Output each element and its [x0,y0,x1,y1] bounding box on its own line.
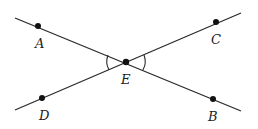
point-D [39,95,45,101]
point-C [213,19,219,25]
point-A [35,23,41,29]
angle-mark-CEB [143,55,145,70]
label-A: A [34,36,44,51]
point-B [210,96,216,102]
point-E [123,59,129,65]
vertical-angles-diagram: A C D B E [0,0,258,129]
angle-mark-AED [107,55,109,70]
label-D: D [38,108,50,123]
line-AB [15,18,241,111]
label-E: E [120,72,131,87]
label-C: C [211,32,221,47]
label-B: B [207,109,218,124]
diagram-svg: A C D B E [0,0,258,129]
